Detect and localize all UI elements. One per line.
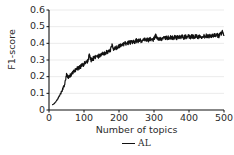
chart-legend: AL <box>49 138 224 148</box>
x-tick-label: 100 <box>68 113 100 123</box>
y-tick-label: 0.1 <box>14 88 45 98</box>
y-tick-label: 0.6 <box>14 5 45 15</box>
legend-line-swatch <box>122 143 135 144</box>
x-tick-label: 500 <box>208 113 234 123</box>
x-tick-label: 0 <box>33 113 65 123</box>
y-tick-label: 0.2 <box>14 71 45 81</box>
x-tick-label: 300 <box>138 113 170 123</box>
legend-label-al: AL <box>138 138 151 148</box>
gridlines-group <box>49 10 224 93</box>
x-tick-label: 200 <box>103 113 135 123</box>
y-tick-label: 0.5 <box>14 21 45 31</box>
axis-tickmarks-group <box>47 10 225 113</box>
y-tick-label: 0.3 <box>14 55 45 65</box>
y-tick-label: 0.4 <box>14 38 45 48</box>
chart-figure: 00.10.20.30.40.50.6 0100200300400500 F1-… <box>0 0 234 155</box>
y-axis-label: F1-score <box>6 20 17 80</box>
x-tick-label: 400 <box>173 113 205 123</box>
x-axis-label: Number of topics <box>49 124 224 135</box>
